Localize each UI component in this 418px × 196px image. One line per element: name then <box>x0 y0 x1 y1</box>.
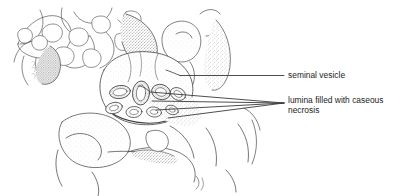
figure-container: seminal vesicle lumina filled with caseo… <box>0 0 418 196</box>
lower-oval-body <box>146 130 169 151</box>
label-seminal-vesicle: seminal vesicle <box>288 70 345 80</box>
ink-squiggle <box>32 61 35 78</box>
lower-duct <box>132 150 177 164</box>
label-lumina-caseous-necrosis: lumina filled with caseous necrosis <box>288 95 383 115</box>
illustration-ink <box>14 8 284 196</box>
right-outer-contour <box>244 108 260 164</box>
